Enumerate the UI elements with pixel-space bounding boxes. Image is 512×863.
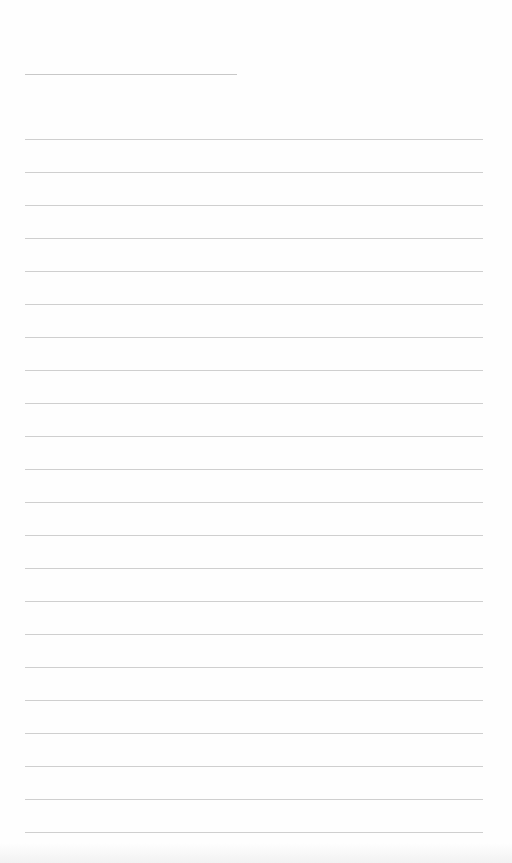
ruled-line — [25, 733, 483, 734]
ruled-line — [25, 205, 483, 206]
ruled-line — [25, 370, 483, 371]
ruled-line — [25, 667, 483, 668]
ruled-line — [25, 700, 483, 701]
ruled-line — [25, 436, 483, 437]
ruled-line — [25, 634, 483, 635]
ruled-line — [25, 568, 483, 569]
ruled-line — [25, 403, 483, 404]
ruled-line — [25, 304, 483, 305]
ruled-line — [25, 238, 483, 239]
ruled-line — [25, 172, 483, 173]
ruled-line — [25, 337, 483, 338]
ruled-line — [25, 502, 483, 503]
paper-show-through — [0, 843, 512, 863]
ruled-line — [25, 139, 483, 140]
ruled-line — [25, 766, 483, 767]
ruled-line — [25, 535, 483, 536]
ruled-line — [25, 469, 483, 470]
ruled-lines-area — [0, 0, 512, 863]
lined-paper-page — [0, 0, 512, 863]
ruled-line — [25, 799, 483, 800]
ruled-line — [25, 832, 483, 833]
ruled-line — [25, 271, 483, 272]
ruled-line — [25, 601, 483, 602]
